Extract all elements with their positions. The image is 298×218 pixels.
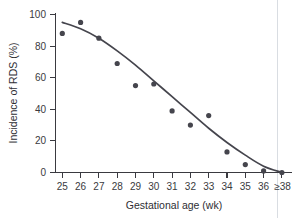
x-tick-label: 28 <box>112 181 124 192</box>
data-point <box>261 168 266 173</box>
y-axis-title: Incidence of RDS (%) <box>7 43 19 144</box>
data-point <box>96 36 101 41</box>
x-tick-label: 31 <box>167 181 179 192</box>
data-point <box>224 149 229 154</box>
data-point <box>279 170 284 175</box>
y-tick-label: 20 <box>35 135 47 146</box>
y-tick-label: 80 <box>35 41 47 52</box>
x-tick-label: 36 <box>258 181 270 192</box>
x-tick-label: 27 <box>93 181 105 192</box>
data-point <box>60 31 65 36</box>
data-point <box>78 20 83 25</box>
data-point <box>133 83 138 88</box>
x-axis-tick-labels: 25 26 27 28 29 30 31 32 33 34 35 36 ≥38 <box>57 181 291 192</box>
x-tick-label: 29 <box>130 181 142 192</box>
data-point <box>188 123 193 128</box>
x-tick-label: ≥38 <box>274 181 291 192</box>
y-axis-ticks <box>50 15 56 173</box>
y-tick-label: 0 <box>40 167 46 178</box>
x-tick-label: 25 <box>57 181 69 192</box>
x-axis-title: Gestational age (wk) <box>126 199 222 211</box>
x-tick-label: 32 <box>185 181 197 192</box>
x-tick-label: 30 <box>148 181 160 192</box>
fitted-curve <box>62 22 282 172</box>
y-axis-tick-labels: 0 20 40 60 80 100 <box>29 9 46 178</box>
x-tick-label: 34 <box>221 181 233 192</box>
data-point <box>170 108 175 113</box>
x-tick-label: 35 <box>240 181 252 192</box>
chart-figure: 0 20 40 60 80 100 25 26 27 <box>0 0 298 218</box>
data-point <box>151 81 156 86</box>
y-tick-label: 40 <box>35 104 47 115</box>
x-tick-label: 33 <box>203 181 215 192</box>
x-tick-label: 26 <box>75 181 87 192</box>
rds-incidence-scatter-chart: 0 20 40 60 80 100 25 26 27 <box>0 0 298 218</box>
data-point <box>243 162 248 167</box>
y-tick-label: 100 <box>29 9 46 20</box>
data-point <box>206 113 211 118</box>
x-axis-ticks <box>62 173 282 179</box>
y-tick-label: 60 <box>35 72 47 83</box>
data-point <box>115 61 120 66</box>
